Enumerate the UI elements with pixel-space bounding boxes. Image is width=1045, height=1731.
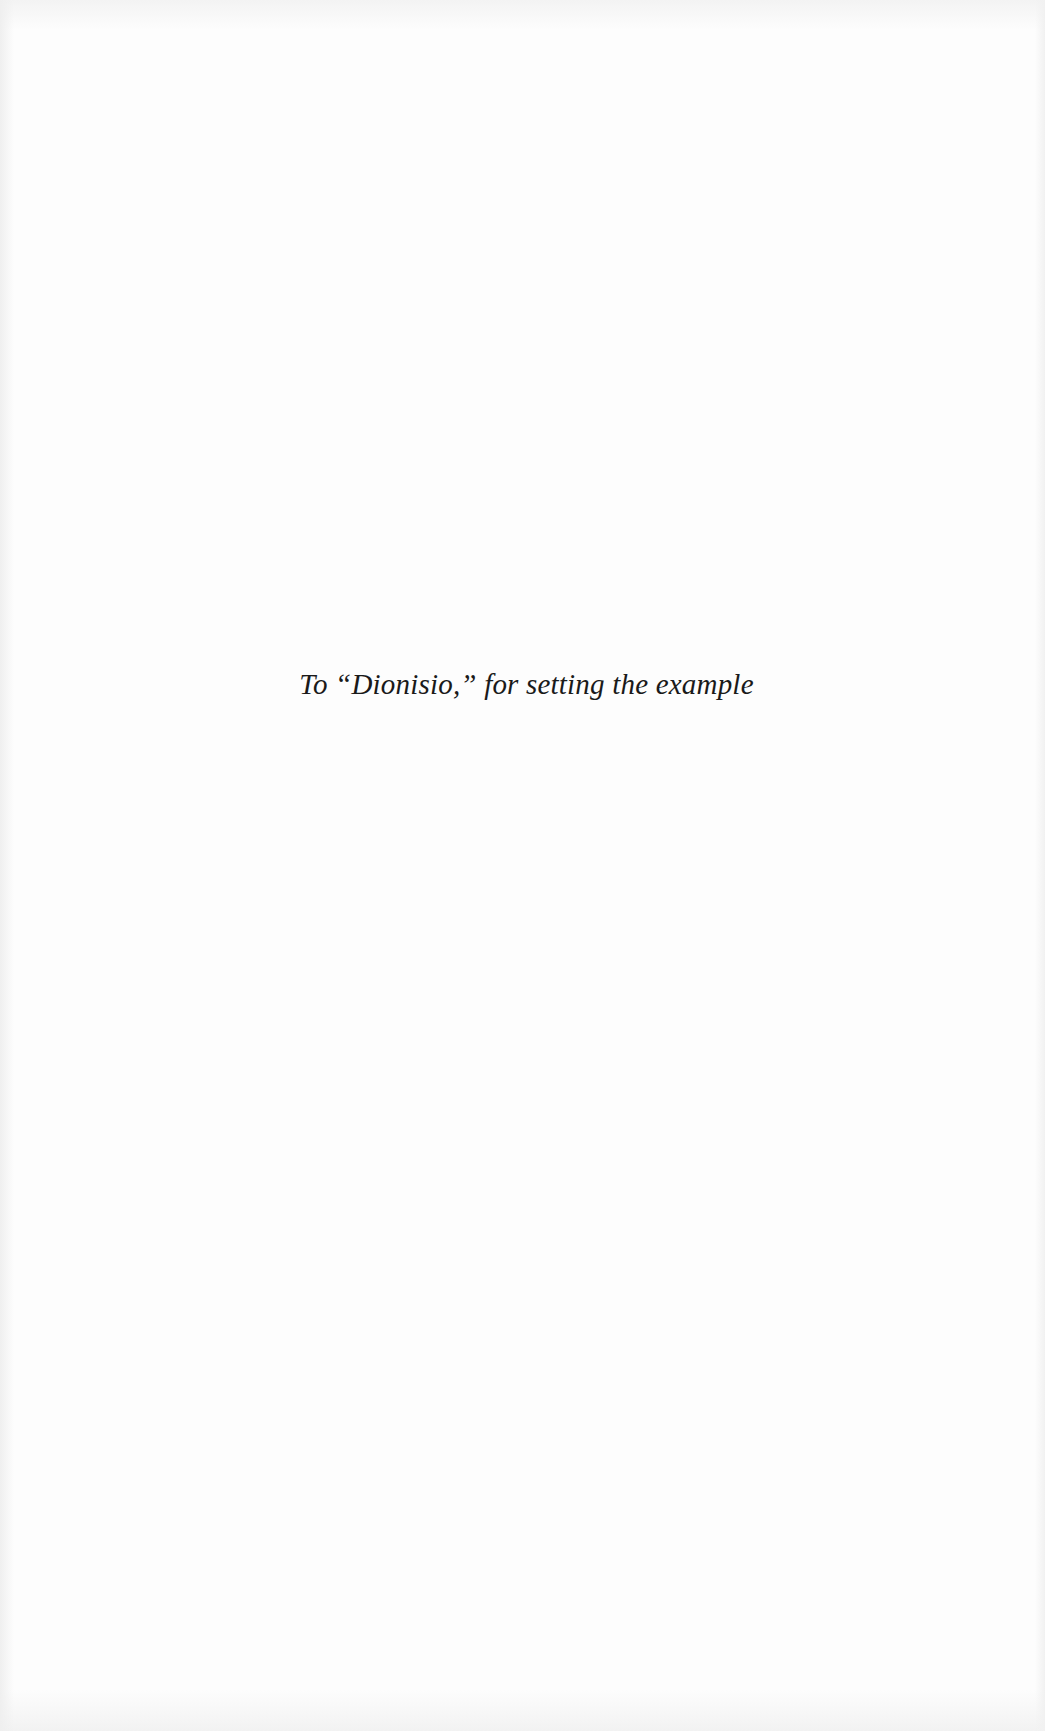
book-page: To “Dionisio,” for setting the example: [0, 0, 1045, 1731]
dedication-text: To “Dionisio,” for setting the example: [0, 668, 1045, 701]
page-edge-right: [1035, 0, 1045, 1731]
page-edge-left: [0, 0, 14, 1731]
